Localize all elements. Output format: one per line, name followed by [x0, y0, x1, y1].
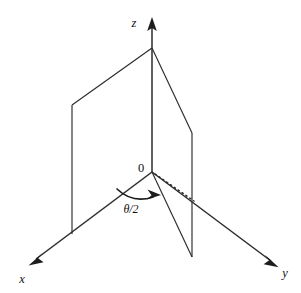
- half-angle-arrowhead: [147, 190, 161, 200]
- right-plane-face: [152, 48, 192, 257]
- y-axis-label: y: [280, 266, 288, 280]
- x-axis-label: x: [18, 272, 25, 286]
- diagram-canvas: z x y 0 θ/2: [0, 0, 301, 293]
- half-angle-arc: [117, 189, 153, 199]
- figure-container: z x y 0 θ/2: [0, 0, 301, 293]
- left-plane-top-edge: [72, 48, 152, 105]
- origin-label: 0: [138, 161, 144, 175]
- right-plane-top-edge: [152, 48, 192, 133]
- right-plane-bottom-edge: [152, 172, 192, 257]
- z-axis-label: z: [131, 16, 137, 30]
- y-axis-line: [152, 172, 271, 261]
- half-angle-label: θ/2: [123, 202, 138, 216]
